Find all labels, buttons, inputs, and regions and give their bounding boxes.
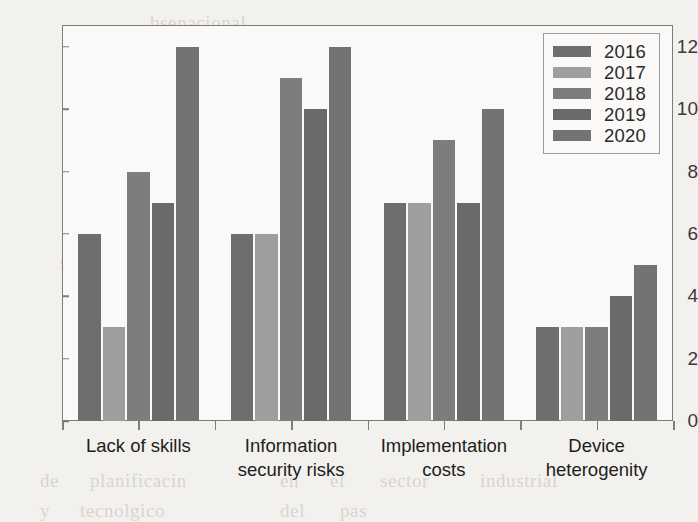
bleedthrough-text: tecnolgico	[80, 500, 165, 522]
bleedthrough-text: de	[40, 470, 59, 492]
x-tick-mark	[62, 421, 64, 430]
legend-row: 2016	[553, 41, 651, 62]
x-group-label: Information security risks	[215, 434, 368, 483]
legend-label: 2020	[604, 125, 646, 147]
legend-row: 2019	[553, 104, 651, 125]
bar	[280, 78, 303, 421]
x-tick-mark	[597, 421, 599, 430]
bar	[610, 296, 633, 421]
bar	[103, 327, 126, 421]
bar	[152, 203, 175, 421]
bleedthrough-text: pas	[340, 500, 367, 522]
bar	[561, 327, 584, 421]
bar	[78, 234, 101, 421]
legend-label: 2018	[604, 83, 646, 105]
x-tick-mark	[215, 421, 217, 430]
legend-row: 2020	[553, 125, 651, 146]
bar	[433, 140, 456, 421]
bar	[176, 47, 199, 421]
bar	[457, 203, 480, 421]
bar	[255, 234, 278, 421]
bar	[536, 327, 559, 421]
bar	[482, 109, 505, 421]
x-tick-mark	[368, 421, 370, 430]
legend: 20162017201820192020	[543, 33, 660, 154]
legend-row: 2018	[553, 83, 651, 104]
bar	[127, 172, 150, 421]
x-tick-mark	[520, 421, 522, 430]
legend-swatch	[553, 46, 591, 57]
bar	[329, 47, 352, 421]
bar	[408, 203, 431, 421]
legend-row: 2017	[553, 62, 651, 83]
legend-swatch	[553, 130, 591, 141]
x-group-label: Lack of skills	[62, 434, 215, 458]
bleedthrough-text: y	[40, 500, 50, 522]
bar	[585, 327, 608, 421]
x-tick-mark	[138, 421, 140, 430]
legend-label: 2019	[604, 104, 646, 126]
x-group-label: Implementation costs	[368, 434, 521, 483]
bar	[304, 109, 327, 421]
legend-swatch	[553, 88, 591, 99]
bar	[384, 203, 407, 421]
legend-swatch	[553, 67, 591, 78]
bleedthrough-text: del	[280, 500, 305, 522]
legend-label: 2017	[604, 62, 646, 84]
x-tick-mark	[444, 421, 446, 430]
legend-swatch	[553, 109, 591, 120]
x-tick-mark	[673, 421, 675, 430]
x-group-label: Device heterogenity	[520, 434, 673, 483]
x-tick-mark	[291, 421, 293, 430]
bar	[634, 265, 657, 421]
bleedthrough-text: planificacin	[90, 470, 187, 492]
bar	[231, 234, 254, 421]
legend-label: 2016	[604, 41, 646, 63]
